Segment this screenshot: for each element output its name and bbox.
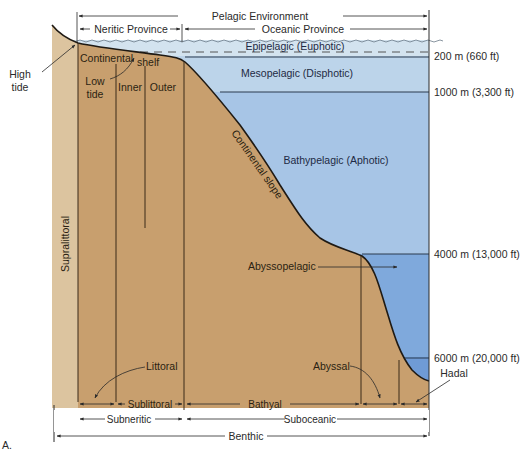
benthic-label: Benthic: [228, 430, 263, 442]
low-tide-label-2: tide: [87, 88, 104, 100]
high-tide-label-2: tide: [12, 81, 29, 93]
depth-6000m-label: 6000 m (20,000 ft): [434, 352, 520, 364]
depth-4000m-label: 4000 m (13,000 ft): [434, 248, 520, 260]
hadal-label: Hadal: [440, 367, 467, 379]
subneritic-label: Subneritic: [107, 414, 151, 425]
marine-zones-diagram: Pelagic Environment Neritic Province Oce…: [0, 0, 527, 455]
bathypelagic-label: Bathypelagic (Aphotic): [283, 154, 388, 166]
depth-1000m-label: 1000 m (3,300 ft): [434, 86, 514, 98]
suboceanic-label: Suboceanic: [284, 414, 336, 425]
oceanic-province-label: Oceanic Province: [262, 23, 344, 35]
abyssopelagic-label: Abyssopelagic: [248, 260, 316, 272]
abyssal-label: Abyssal: [313, 360, 350, 372]
epipelagic-label: Epipelagic (Euphotic): [245, 40, 344, 52]
bathyal-label: Bathyal: [248, 399, 281, 410]
sublittoral-label: Sublittoral: [128, 399, 172, 410]
mesopelagic-label: Mesopelagic (Disphotic): [241, 67, 353, 79]
depth-200m-label: 200 m (660 ft): [434, 50, 499, 62]
pelagic-environment-label: Pelagic Environment: [212, 10, 308, 22]
inner-label: Inner: [118, 81, 142, 93]
neritic-province-label: Neritic Province: [94, 23, 168, 35]
low-tide-label-1: Low: [85, 75, 105, 87]
outer-label: Outer: [150, 81, 177, 93]
high-tide-label-1: High: [9, 68, 31, 80]
littoral-label: Littoral: [146, 360, 178, 372]
continental-label: Continental: [80, 52, 133, 64]
figure-label: A.: [2, 439, 12, 451]
supralittoral-label: Supralittoral: [59, 216, 71, 272]
shelf-label: shelf: [137, 56, 159, 68]
